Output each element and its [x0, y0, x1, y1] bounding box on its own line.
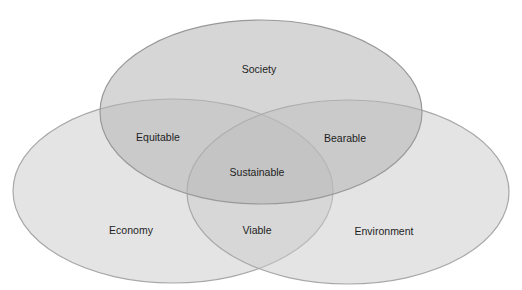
- sustainable-label: Sustainable: [230, 166, 285, 178]
- equitable-label: Equitable: [136, 131, 180, 143]
- economy-label: Economy: [109, 224, 153, 236]
- venn-shapes: [0, 0, 522, 290]
- bearable-label: Bearable: [324, 132, 366, 144]
- society-label: Society: [242, 63, 276, 75]
- venn-diagram: Society Equitable Bearable Sustainable E…: [0, 0, 522, 290]
- viable-label: Viable: [243, 224, 272, 236]
- environment-label: Environment: [355, 225, 414, 237]
